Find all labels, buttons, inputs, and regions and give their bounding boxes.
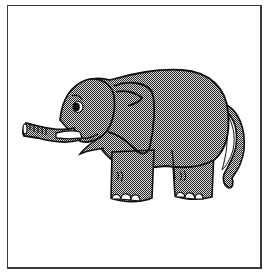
- elephant-front-leg: [111, 150, 154, 202]
- elephant-illustration: [0, 0, 265, 274]
- trunk-tip-nostril: [23, 124, 27, 134]
- elephant-eye: [73, 102, 83, 113]
- elephant-tusk: [56, 131, 82, 139]
